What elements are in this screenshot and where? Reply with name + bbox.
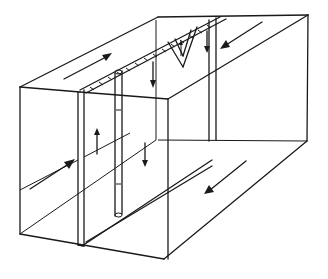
arrow-top-left-icon	[64, 56, 108, 79]
arrows	[30, 22, 262, 194]
arrow-left-face-icon	[30, 163, 70, 189]
arrow-bottom-right-icon	[210, 161, 246, 190]
dike-cylinder	[115, 70, 122, 217]
fault-block-diagram	[0, 0, 328, 279]
arrow-top-right-icon	[226, 22, 262, 45]
fault-zone-slab	[20, 17, 226, 246]
